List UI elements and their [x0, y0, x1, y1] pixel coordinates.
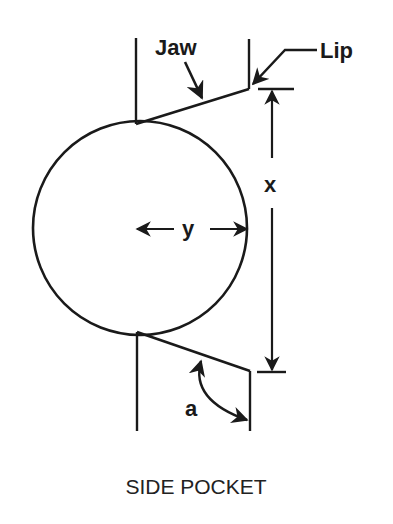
y-dimension-label: y	[182, 216, 195, 241]
x-dimension-label: x	[264, 172, 277, 197]
upper-jaw	[136, 89, 249, 124]
jaw-label: Jaw	[155, 35, 197, 60]
jaw-pointer-arrow	[185, 62, 202, 98]
a-angle-arc	[199, 361, 247, 420]
lip-pointer-arrow	[253, 50, 317, 84]
diagram-caption: SIDE POCKET	[125, 475, 266, 498]
side-pocket-diagram: Jaw Lip x y a SIDE POCKET	[0, 0, 393, 524]
lower-jaw	[137, 332, 250, 371]
a-angle-label: a	[185, 396, 198, 421]
lip-label: Lip	[320, 38, 353, 63]
